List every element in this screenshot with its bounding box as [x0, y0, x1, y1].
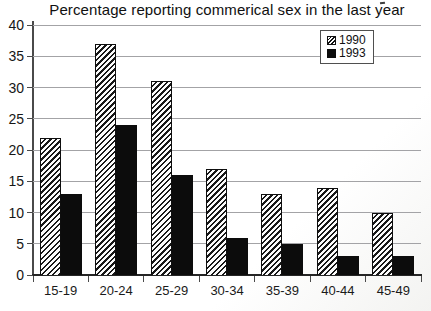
x-axis-tick-7: [421, 276, 422, 282]
gridline-20: [33, 150, 421, 151]
bar-1990-25-29: [151, 81, 172, 275]
y-axis-label-0: 0: [0, 267, 24, 283]
legend-swatch-1993-icon: [327, 49, 336, 58]
gridline-10: [33, 212, 421, 213]
y-axis-line: [32, 21, 34, 275]
bar-1990-45-49: [372, 213, 393, 276]
x-axis-label-25-29: 25-29: [144, 283, 200, 298]
y-axis-tick-35: [27, 56, 33, 57]
y-axis-label-10: 10: [0, 205, 24, 221]
bar-1993-45-49: [393, 256, 414, 275]
x-axis-label-30-34: 30-34: [199, 283, 255, 298]
bar-1993-35-39: [282, 244, 303, 275]
legend: 19901993: [320, 30, 374, 64]
x-axis-tick-5: [310, 276, 311, 282]
legend-label-1993: 1993: [339, 47, 366, 60]
x-axis-label-15-19: 15-19: [33, 283, 89, 298]
gridline-40: [33, 25, 421, 26]
x-axis-tick-1: [88, 276, 89, 282]
y-axis-tick-40: [27, 25, 33, 26]
x-axis-tick-3: [199, 276, 200, 282]
bar-1993-25-29: [172, 175, 193, 275]
y-axis-label-15: 15: [0, 173, 24, 189]
gridline-15: [33, 181, 421, 182]
y-axis-tick-30: [27, 87, 33, 88]
bar-1993-30-34: [227, 238, 248, 276]
bar-chart: Percentage reporting commerical sex in t…: [0, 0, 431, 311]
y-axis-tick-15: [27, 181, 33, 182]
y-axis-label-25: 25: [0, 111, 24, 127]
y-axis-tick-20: [27, 150, 33, 151]
legend-swatch-1990-icon: [327, 36, 336, 45]
bar-1993-20-24: [116, 125, 137, 275]
bar-1990-20-24: [95, 44, 116, 275]
legend-item-1993: 1993: [327, 47, 369, 60]
bar-1990-40-44: [317, 188, 338, 276]
x-axis-tick-2: [143, 276, 144, 282]
x-axis-tick-0: [33, 276, 34, 282]
x-axis-label-45-49: 45-49: [365, 283, 421, 298]
y-axis-label-30: 30: [0, 80, 24, 96]
gridline-25: [33, 118, 421, 119]
y-axis-tick-5: [27, 243, 33, 244]
y-axis-label-35: 35: [0, 48, 24, 64]
y-axis-label-40: 40: [0, 17, 24, 33]
x-axis-tick-4: [254, 276, 255, 282]
x-axis-label-35-39: 35-39: [254, 283, 310, 298]
bar-1993-40-44: [338, 256, 359, 275]
bar-1990-35-39: [261, 194, 282, 275]
gridline-30: [33, 87, 421, 88]
x-axis-label-40-44: 40-44: [310, 283, 366, 298]
x-axis-label-20-24: 20-24: [88, 283, 144, 298]
bar-1990-30-34: [206, 169, 227, 275]
bar-1990-15-19: [40, 138, 61, 276]
y-axis-tick-25: [27, 118, 33, 119]
y-axis-label-20: 20: [0, 142, 24, 158]
y-axis-tick-10: [27, 212, 33, 213]
bar-1993-15-19: [61, 194, 82, 275]
chart-title: Percentage reporting commerical sex in t…: [33, 1, 421, 18]
y-axis-label-5: 5: [0, 236, 24, 252]
x-axis-tick-6: [365, 276, 366, 282]
